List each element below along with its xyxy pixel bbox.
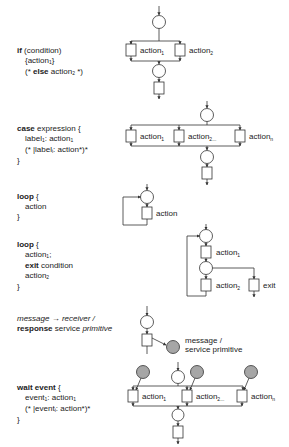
svg-text:action2...: action2... <box>196 392 224 402</box>
svg-text:exit: exit <box>263 281 276 290</box>
diagram-message <box>141 306 180 354</box>
svg-text:actionn: actionn <box>251 392 275 402</box>
svg-text:action1: action1 <box>140 46 164 56</box>
svg-text:action1: action1 <box>216 248 240 258</box>
diagram-loop <box>123 184 154 225</box>
svg-text:action2: action2 <box>189 46 213 56</box>
state-circle <box>153 16 166 29</box>
svg-text:service primitive: service primitive <box>185 345 243 354</box>
svg-text:action2...: action2... <box>188 132 216 142</box>
action-box <box>154 82 164 94</box>
diagram-labels: action1 action2 action1 action2... actio… <box>140 46 276 402</box>
action-box <box>126 44 136 56</box>
svg-text:actionn: actionn <box>249 132 273 142</box>
svg-text:action1: action1 <box>142 392 166 402</box>
svg-text:message /: message / <box>185 336 223 345</box>
diagram-wait <box>128 362 258 444</box>
state-circle <box>153 65 166 78</box>
svg-text:action: action <box>156 209 177 218</box>
svg-text:action2: action2 <box>216 281 240 291</box>
event-circle <box>167 341 180 354</box>
action-box <box>175 44 185 56</box>
diagram-case <box>126 101 245 185</box>
diagram-canvas: action1 action2 action1 action2... actio… <box>0 0 289 447</box>
svg-text:action1: action1 <box>140 132 164 142</box>
